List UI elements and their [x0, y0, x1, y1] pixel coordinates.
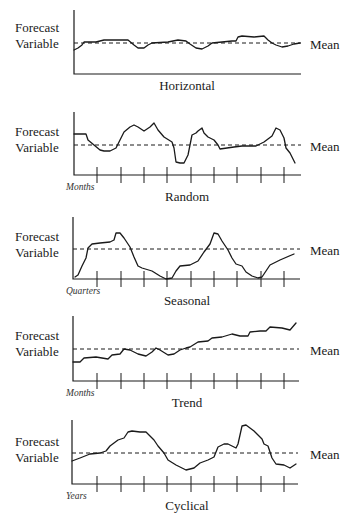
forecast-patterns-figure: Forecast Variable Mean Horizontal Foreca…: [0, 0, 362, 526]
plot-canvas: [0, 0, 362, 526]
axes-seasonal: [73, 217, 300, 279]
series-line-trend: [73, 323, 296, 362]
series-line-cyclical: [72, 425, 296, 470]
axes-random: [74, 112, 301, 175]
axes-cyclical: [72, 420, 298, 484]
series-line-random: [74, 123, 295, 163]
